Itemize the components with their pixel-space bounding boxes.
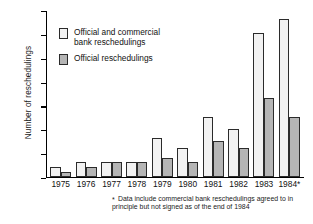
bar-official-and-commercial <box>203 117 214 177</box>
bar-official <box>137 162 148 176</box>
x-tick-label: 1980 <box>175 180 200 189</box>
x-tick-label: 1984* <box>277 180 302 189</box>
legend-label-official-and-commercial: Official and commercial bank reschedulin… <box>74 28 160 47</box>
bar-official-and-commercial <box>126 162 137 176</box>
y-tick-mark <box>41 35 46 36</box>
x-tick-label: 1976 <box>73 180 98 189</box>
chart-legend: Official and commercial bank reschedulin… <box>59 28 229 72</box>
bar-official-and-commercial <box>228 129 239 177</box>
bar-official <box>86 167 97 177</box>
bar-group <box>226 11 251 177</box>
footnote-marker: * <box>112 196 115 204</box>
bar-official <box>162 158 173 177</box>
bar-official <box>188 162 199 176</box>
bar-official-and-commercial <box>253 33 264 176</box>
legend-swatch-light-icon <box>59 28 68 39</box>
x-tick-label: 1982 <box>226 180 251 189</box>
legend-item-official: Official reschedulings <box>59 54 229 65</box>
x-axis-tick-labels: 1975197619771978197919801981198219831984… <box>48 180 302 189</box>
bar-official-and-commercial <box>50 167 61 177</box>
rescheduling-bar-chart: Number of reschedulings 05101520253035 1… <box>0 0 313 224</box>
bar-official <box>112 162 123 176</box>
legend-item-official-and-commercial: Official and commercial bank reschedulin… <box>59 28 229 47</box>
bar-official-and-commercial <box>152 138 163 176</box>
y-tick-mark <box>41 59 46 60</box>
y-tick-mark <box>41 106 46 107</box>
legend-label-official: Official reschedulings <box>74 54 153 64</box>
footnote-text: Data include commercial bank reschedulin… <box>112 195 293 210</box>
x-tick-label: 1979 <box>150 180 175 189</box>
y-tick-mark <box>41 130 46 131</box>
y-tick-mark <box>41 154 46 155</box>
bar-group <box>277 11 302 177</box>
bar-official <box>289 117 300 177</box>
x-tick-label: 1975 <box>48 180 73 189</box>
bar-official <box>239 148 250 177</box>
bar-official-and-commercial <box>279 19 290 176</box>
bar-group <box>251 11 276 177</box>
y-tick-mark <box>41 178 46 179</box>
x-tick-label: 1981 <box>200 180 225 189</box>
bar-official <box>264 98 275 177</box>
y-tick-mark <box>41 83 46 84</box>
y-axis-title: Number of reschedulings <box>24 13 33 173</box>
x-tick-label: 1977 <box>99 180 124 189</box>
bar-official-and-commercial <box>177 148 188 177</box>
legend-swatch-dark-icon <box>59 54 68 65</box>
bar-official-and-commercial <box>101 162 112 176</box>
chart-footnote: * Data include commercial bank reschedul… <box>112 195 308 211</box>
bar-official-and-commercial <box>76 162 87 176</box>
x-tick-label: 1978 <box>124 180 149 189</box>
bar-official <box>61 172 72 177</box>
bar-official <box>213 141 224 177</box>
x-axis-line <box>46 177 304 178</box>
x-tick-label: 1983 <box>251 180 276 189</box>
y-tick-mark <box>41 11 46 12</box>
